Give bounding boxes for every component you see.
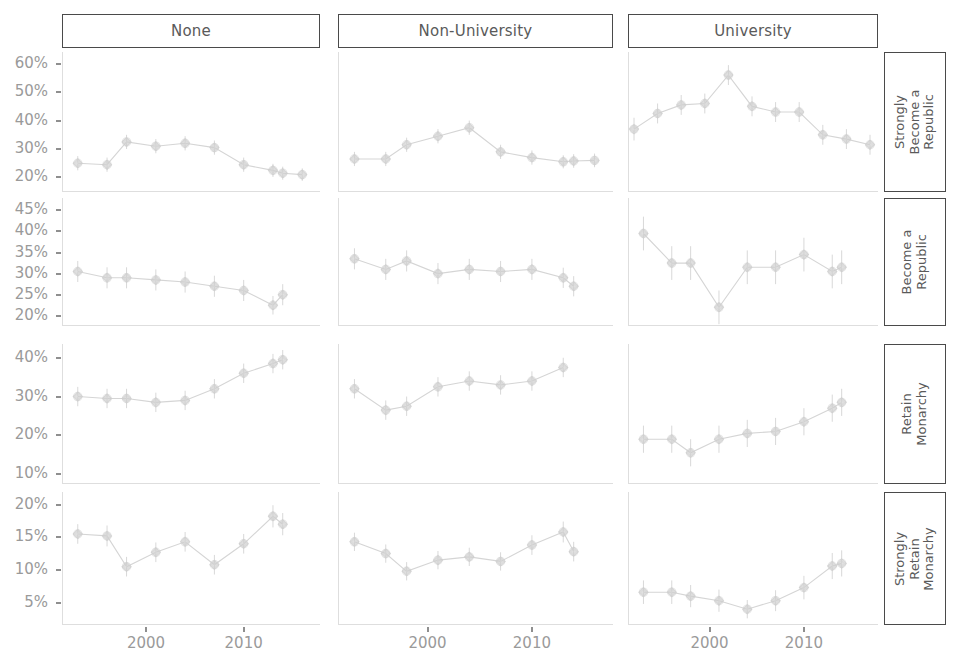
panel-none-become-a-republic bbox=[62, 198, 320, 326]
data-point bbox=[122, 135, 131, 149]
y-axis-tick-label: 5% bbox=[0, 595, 48, 610]
data-point bbox=[795, 102, 804, 122]
y-axis-tick-mark bbox=[56, 91, 61, 93]
x-axis-tick-label: 2000 bbox=[116, 636, 176, 651]
series-plot bbox=[338, 198, 613, 326]
series-plot bbox=[62, 198, 320, 326]
data-point bbox=[590, 154, 599, 168]
panel-none-strongly-retain-monarchy bbox=[62, 492, 320, 625]
y-axis-tick-label: 30% bbox=[0, 389, 48, 404]
row-strip-label: StronglyBecome aRepublic bbox=[893, 90, 937, 155]
panel-non-university-strongly-become-a-republic bbox=[338, 52, 613, 192]
data-point bbox=[298, 168, 307, 181]
column-strip-label: University bbox=[714, 22, 792, 40]
data-point bbox=[73, 261, 82, 282]
column-strip-non-university: Non-University bbox=[338, 14, 613, 48]
data-point bbox=[743, 420, 752, 447]
data-point bbox=[402, 138, 411, 152]
y-axis-tick-mark bbox=[56, 252, 61, 254]
data-point bbox=[402, 397, 411, 416]
data-point bbox=[747, 96, 756, 116]
data-point bbox=[433, 551, 442, 569]
data-point bbox=[73, 387, 82, 406]
data-point bbox=[122, 389, 131, 408]
data-point bbox=[686, 439, 695, 466]
data-point bbox=[278, 513, 287, 535]
series-plot bbox=[628, 492, 878, 625]
series-plot bbox=[628, 198, 878, 326]
y-axis-tick-label: 20% bbox=[0, 497, 48, 512]
data-point bbox=[210, 379, 219, 398]
y-axis-tick-label: 50% bbox=[0, 84, 48, 99]
x-axis-tick-label: 2010 bbox=[214, 636, 274, 651]
y-axis-tick-label: 20% bbox=[0, 308, 48, 323]
data-point bbox=[73, 524, 82, 544]
y-axis-tick-label: 40% bbox=[0, 113, 48, 128]
data-point bbox=[210, 276, 219, 297]
x-axis-tick-label: 2000 bbox=[680, 636, 740, 651]
data-point bbox=[527, 150, 536, 164]
data-point bbox=[465, 121, 474, 135]
data-point bbox=[527, 371, 536, 390]
data-point bbox=[700, 94, 709, 114]
series-plot bbox=[338, 52, 613, 192]
trend-line bbox=[643, 402, 841, 452]
data-point bbox=[181, 136, 190, 150]
data-point bbox=[527, 535, 536, 555]
column-strip-label: Non-University bbox=[419, 22, 533, 40]
data-point bbox=[268, 164, 277, 177]
data-point bbox=[677, 95, 686, 115]
data-point bbox=[496, 375, 505, 394]
y-axis-tick-mark bbox=[56, 504, 61, 506]
data-point bbox=[239, 364, 248, 383]
data-point bbox=[151, 542, 160, 562]
data-point bbox=[210, 140, 219, 154]
data-point bbox=[714, 590, 723, 612]
panel-non-university-retain-monarchy bbox=[338, 344, 613, 484]
x-axis-tick-mark bbox=[145, 627, 147, 632]
data-point bbox=[381, 400, 390, 419]
panel-non-university-strongly-retain-monarchy bbox=[338, 492, 613, 625]
data-point bbox=[350, 379, 359, 398]
data-point bbox=[151, 269, 160, 290]
y-axis-tick-mark bbox=[56, 120, 61, 122]
column-strip-none: None bbox=[62, 14, 320, 48]
y-axis-tick-label: 60% bbox=[0, 56, 48, 71]
trend-line bbox=[354, 128, 594, 162]
data-point bbox=[799, 238, 808, 272]
data-point bbox=[686, 246, 695, 280]
y-axis-tick-label: 40% bbox=[0, 350, 48, 365]
data-point bbox=[278, 284, 287, 305]
data-point bbox=[743, 600, 752, 618]
data-point bbox=[122, 557, 131, 577]
data-point bbox=[629, 118, 638, 141]
data-point bbox=[181, 532, 190, 552]
y-axis-tick-label: 10% bbox=[0, 466, 48, 481]
data-point bbox=[559, 268, 568, 288]
panel-university-strongly-become-a-republic bbox=[628, 52, 878, 192]
data-point bbox=[103, 389, 112, 408]
data-point bbox=[559, 358, 568, 377]
data-point bbox=[181, 391, 190, 410]
data-point bbox=[151, 393, 160, 412]
series-plot bbox=[628, 344, 878, 484]
data-point bbox=[465, 548, 474, 566]
data-point bbox=[837, 550, 846, 576]
data-point bbox=[103, 525, 112, 546]
data-point bbox=[239, 280, 248, 301]
row-strip-label: Become aRepublic bbox=[900, 230, 929, 295]
data-point bbox=[667, 580, 676, 604]
y-axis-tick-mark bbox=[56, 63, 61, 65]
x-axis-tick-mark bbox=[427, 627, 429, 632]
data-point bbox=[181, 271, 190, 292]
data-point bbox=[268, 296, 277, 315]
panel-non-university-become-a-republic bbox=[338, 198, 613, 326]
series-plot bbox=[62, 344, 320, 484]
data-point bbox=[350, 248, 359, 269]
panel-none-retain-monarchy bbox=[62, 344, 320, 484]
y-axis-tick-label: 20% bbox=[0, 427, 48, 442]
y-axis-tick-label: 45% bbox=[0, 202, 48, 217]
data-point bbox=[527, 259, 536, 280]
data-point bbox=[667, 246, 676, 280]
data-point bbox=[268, 505, 277, 527]
